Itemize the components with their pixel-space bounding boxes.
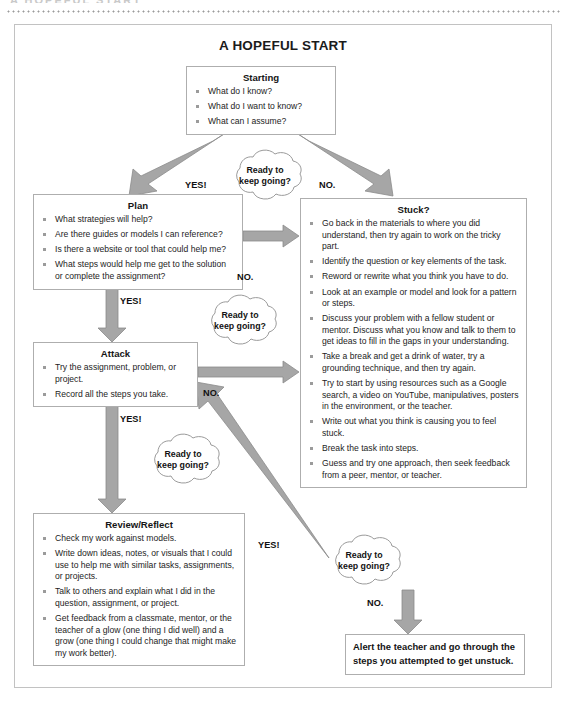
list-item: Try the assignment, problem, or project.	[41, 362, 190, 385]
cropped-header-text: A HOPEFUL START	[10, 0, 550, 3]
list-item-label: Is there a website or tool that could he…	[55, 244, 226, 254]
list-item: Write down ideas, notes, or visuals that…	[41, 548, 237, 583]
node-stuck-list: Go back in the materials to where you di…	[308, 218, 519, 481]
bullet-icon	[310, 420, 313, 423]
list-item-label: What do I want to know?	[208, 101, 302, 111]
bullet-icon	[196, 90, 199, 93]
cloud-line-1: Ready to	[246, 165, 283, 176]
node-stuck[interactable]: Stuck? Go back in the materials to where…	[300, 198, 527, 488]
node-review-title: Review/Reflect	[41, 519, 237, 530]
list-item: Talk to others and explain what I did in…	[41, 586, 237, 609]
edge-label-plan-yes: YES!	[120, 296, 141, 306]
bullet-icon	[310, 447, 313, 450]
list-item-label: Go back in the materials to where you di…	[322, 218, 501, 251]
cloud-ready-2-label: Ready to keep going?	[194, 293, 286, 349]
bullet-icon	[196, 120, 199, 123]
node-starting[interactable]: Starting What do I know? What do I want …	[186, 66, 336, 135]
list-item: What steps would help me get to the solu…	[41, 259, 235, 282]
cloud-ready-3: Ready to keep going?	[137, 432, 229, 488]
bullet-icon	[310, 382, 313, 385]
list-item-label: Get feedback from a classmate, mentor, o…	[55, 613, 236, 658]
node-starting-list: What do I know? What do I want to know? …	[194, 86, 328, 128]
list-item: Record all the steps you take.	[41, 389, 190, 401]
list-item: Discuss your problem with a fellow stude…	[308, 313, 519, 348]
bullet-icon	[310, 260, 313, 263]
bullet-icon	[43, 218, 46, 221]
list-item-label: Take a break and get a drink of water, t…	[322, 351, 484, 373]
list-item-label: Guess and try one approach, then seek fe…	[322, 458, 510, 480]
bullet-icon	[43, 393, 46, 396]
list-item-label: Write down ideas, notes, or visuals that…	[55, 548, 234, 581]
flowchart-page: A HOPEFUL START A HOPEFUL START	[0, 0, 566, 711]
cloud-ready-2: Ready to keep going?	[194, 293, 286, 349]
bullet-icon	[310, 275, 313, 278]
node-alert-text: Alert the teacher and go through the ste…	[353, 640, 517, 668]
list-item-label: Check my work against models.	[55, 533, 176, 543]
list-item-label: Discuss your problem with a fellow stude…	[322, 313, 515, 346]
list-item-label: Break the task into steps.	[322, 443, 419, 453]
cloud-ready-4-label: Ready to keep going?	[318, 533, 410, 589]
list-item: What do I know?	[194, 86, 328, 98]
list-item: Identify the question or key elements of…	[308, 256, 519, 268]
list-item: Look at an example or model and look for…	[308, 287, 519, 310]
bullet-icon	[43, 263, 46, 266]
bullet-icon	[43, 590, 46, 593]
node-review[interactable]: Review/Reflect Check my work against mod…	[33, 513, 245, 666]
list-item-label: Look at an example or model and look for…	[322, 287, 516, 309]
node-attack-title: Attack	[41, 348, 190, 359]
cloud-line-2: keep going?	[239, 176, 291, 187]
bullet-icon	[43, 537, 46, 540]
cloud-line-1: Ready to	[345, 550, 382, 561]
list-item: Reword or rewrite what you think you hav…	[308, 271, 519, 283]
bullet-icon	[43, 233, 46, 236]
cloud-line-2: keep going?	[214, 321, 266, 332]
edge-label-review-no: NO.	[367, 598, 383, 608]
node-plan-list: What strategies will help? Are there gui…	[41, 214, 235, 282]
node-alert[interactable]: Alert the teacher and go through the ste…	[345, 634, 525, 675]
list-item: What strategies will help?	[41, 214, 235, 226]
edge-label-starting-no: NO.	[319, 180, 335, 190]
bullet-icon	[43, 617, 46, 620]
list-item-label: Try the assignment, problem, or project.	[55, 362, 176, 384]
list-item-label: What strategies will help?	[55, 214, 152, 224]
node-plan[interactable]: Plan What strategies will help? Are ther…	[33, 194, 243, 290]
list-item-label: What can I assume?	[208, 116, 286, 126]
list-item: Try to start by using resources such as …	[308, 378, 519, 413]
list-item-label: What steps would help me get to the solu…	[55, 259, 226, 281]
node-starting-title: Starting	[194, 72, 328, 83]
list-item-label: Talk to others and explain what I did in…	[55, 586, 215, 608]
bullet-icon	[310, 222, 313, 225]
list-item-label: Are there guides or models I can referen…	[55, 229, 223, 239]
list-item-label: Record all the steps you take.	[55, 389, 168, 399]
cloud-line-2: keep going?	[157, 460, 209, 471]
list-item-label: Reword or rewrite what you think you hav…	[322, 271, 508, 281]
list-item-label: What do I know?	[208, 86, 272, 96]
list-item: Break the task into steps.	[308, 443, 519, 455]
list-item-label: Try to start by using resources such as …	[322, 378, 519, 411]
cloud-ready-1: Ready to keep going?	[219, 148, 311, 204]
list-item: What do I want to know?	[194, 101, 328, 113]
edge-label-plan-no: NO.	[237, 272, 253, 282]
list-item: Write out what you think is causing you …	[308, 416, 519, 439]
bullet-icon	[310, 317, 313, 320]
cloud-line-2: keep going?	[338, 561, 390, 572]
edge-label-attack-no: NO.	[203, 388, 219, 398]
list-item: Get feedback from a classmate, mentor, o…	[41, 613, 237, 659]
list-item: Go back in the materials to where you di…	[308, 218, 519, 253]
edge-label-starting-yes: YES!	[185, 180, 206, 190]
page-title: A HOPEFUL START	[0, 38, 566, 53]
bullet-icon	[196, 105, 199, 108]
edge-label-attack-yes: YES!	[120, 414, 141, 424]
list-item-label: Write out what you think is causing you …	[322, 416, 496, 438]
node-attack[interactable]: Attack Try the assignment, problem, or p…	[33, 342, 198, 407]
cloud-line-1: Ready to	[164, 449, 201, 460]
bullet-icon	[43, 366, 46, 369]
list-item: Are there guides or models I can referen…	[41, 229, 235, 241]
edge-label-review-yes: YES!	[258, 540, 279, 550]
cloud-ready-1-label: Ready to keep going?	[219, 148, 311, 204]
node-attack-list: Try the assignment, problem, or project.…	[41, 362, 190, 400]
cloud-ready-3-label: Ready to keep going?	[137, 432, 229, 488]
list-item: Check my work against models.	[41, 533, 237, 545]
list-item: Guess and try one approach, then seek fe…	[308, 458, 519, 481]
list-item: Take a break and get a drink of water, t…	[308, 351, 519, 374]
